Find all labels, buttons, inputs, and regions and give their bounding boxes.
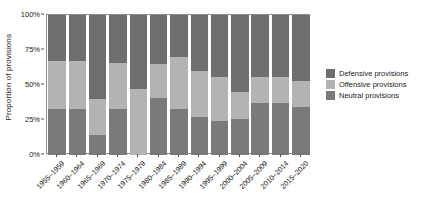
- bar-segment[interactable]: [292, 15, 309, 81]
- x-tick-mark: [56, 154, 57, 157]
- bar-segment[interactable]: [109, 63, 126, 109]
- x-tick-mark: [178, 154, 179, 157]
- bar-segment[interactable]: [191, 71, 208, 117]
- bar-segment[interactable]: [272, 103, 289, 155]
- bar-column[interactable]: [191, 15, 208, 153]
- legend-swatch: [326, 91, 335, 100]
- bar-segment[interactable]: [251, 15, 268, 77]
- bar-column[interactable]: [69, 15, 86, 153]
- x-tick-mark: [158, 154, 159, 157]
- bar-segment[interactable]: [211, 121, 228, 155]
- legend-item[interactable]: Neutral provisions: [326, 90, 424, 101]
- bar-segment[interactable]: [211, 15, 228, 77]
- y-tick-label: 0%: [29, 150, 40, 159]
- y-tick-label: 25%: [25, 115, 40, 124]
- bar-segment[interactable]: [191, 15, 208, 71]
- bar-segment[interactable]: [109, 109, 126, 155]
- bar-segment[interactable]: [170, 109, 187, 155]
- legend-item[interactable]: Defensive provisions: [326, 68, 424, 79]
- x-tick-mark: [280, 154, 281, 157]
- plot-panel: [46, 14, 310, 154]
- bar-segment[interactable]: [231, 15, 248, 92]
- bar-segment[interactable]: [69, 109, 86, 155]
- legend-swatch: [326, 80, 335, 89]
- bar-segment[interactable]: [170, 15, 187, 57]
- bar-segment[interactable]: [292, 107, 309, 155]
- x-tick-mark: [97, 154, 98, 157]
- legend: Defensive provisionsOffensive provisions…: [326, 68, 424, 101]
- bar-segment[interactable]: [130, 89, 147, 155]
- x-tick-mark: [117, 154, 118, 157]
- bar-column[interactable]: [170, 15, 187, 153]
- y-axis-title-label: Proportion of provisions: [4, 34, 13, 120]
- legend-label: Defensive provisions: [339, 68, 408, 79]
- bar-segment[interactable]: [272, 15, 289, 77]
- bar-segment[interactable]: [191, 117, 208, 155]
- stacked-bar-chart: Proportion of provisions 0%25%50%75%100%…: [0, 0, 426, 208]
- bar-segment[interactable]: [109, 15, 126, 63]
- legend-swatch: [326, 69, 335, 78]
- legend-label: Offensive provisions: [339, 79, 406, 90]
- bar-segment[interactable]: [150, 98, 167, 155]
- legend-item[interactable]: Offensive provisions: [326, 79, 424, 90]
- bar-segment[interactable]: [89, 135, 106, 155]
- bar-column[interactable]: [231, 15, 248, 153]
- bar-column[interactable]: [109, 15, 126, 153]
- x-axis-tick-labels: 1955–19591960–19641965–19691970–19741975…: [46, 154, 310, 208]
- x-tick-mark: [259, 154, 260, 157]
- y-tick-mark: [41, 84, 44, 85]
- x-tick-mark: [219, 154, 220, 157]
- y-tick-mark: [41, 119, 44, 120]
- x-tick-mark: [76, 154, 77, 157]
- bar-segment[interactable]: [251, 103, 268, 155]
- bar-segment[interactable]: [130, 15, 147, 89]
- bar-segment[interactable]: [89, 99, 106, 135]
- bar-column[interactable]: [89, 15, 106, 153]
- bar-segment[interactable]: [69, 61, 86, 109]
- bar-segment[interactable]: [48, 15, 65, 61]
- bar-column[interactable]: [211, 15, 228, 153]
- y-tick-label: 100%: [21, 10, 40, 19]
- bar-column[interactable]: [130, 15, 147, 153]
- bar-segment[interactable]: [69, 15, 86, 61]
- bar-segment[interactable]: [170, 57, 187, 109]
- bar-segment[interactable]: [231, 119, 248, 155]
- bar-column[interactable]: [272, 15, 289, 153]
- bar-segment[interactable]: [231, 92, 248, 119]
- bar-segment[interactable]: [48, 61, 65, 109]
- bar-segment[interactable]: [150, 64, 167, 98]
- x-tick-mark: [137, 154, 138, 157]
- legend-label: Neutral provisions: [339, 90, 399, 101]
- bar-segment[interactable]: [89, 15, 106, 99]
- bars-layer: [47, 15, 309, 153]
- bar-segment[interactable]: [211, 77, 228, 122]
- bar-column[interactable]: [292, 15, 309, 153]
- x-tick-mark: [239, 154, 240, 157]
- y-tick-label: 50%: [25, 80, 40, 89]
- bar-column[interactable]: [150, 15, 167, 153]
- bar-segment[interactable]: [150, 15, 167, 64]
- y-tick-label: 75%: [25, 45, 40, 54]
- bar-segment[interactable]: [292, 81, 309, 108]
- bar-segment[interactable]: [48, 109, 65, 155]
- x-tick-mark: [198, 154, 199, 157]
- y-tick-mark: [41, 154, 44, 155]
- y-axis-tick-labels: 0%25%50%75%100%: [14, 14, 44, 154]
- bar-column[interactable]: [48, 15, 65, 153]
- bar-segment[interactable]: [272, 77, 289, 104]
- y-tick-mark: [41, 49, 44, 50]
- bar-segment[interactable]: [251, 77, 268, 104]
- x-tick-mark: [300, 154, 301, 157]
- y-tick-mark: [41, 14, 44, 15]
- bar-column[interactable]: [251, 15, 268, 153]
